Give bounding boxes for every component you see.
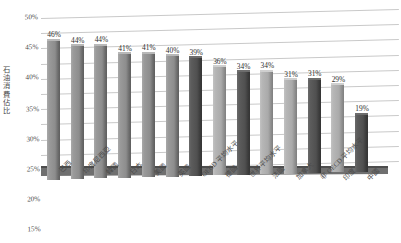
bar: 39%: [189, 57, 202, 176]
bar-value-label: 46%: [47, 31, 61, 38]
bar-value-label: 41%: [118, 45, 132, 52]
bar-value-label: 34%: [261, 62, 275, 69]
y-axis-tick-label: 40%: [15, 75, 39, 83]
bar-face: [118, 53, 131, 178]
x-axis-labels: 巴西印度尼西亞韓國日本美國英國OECD 平均水平德國世界平均水平法國加拿大非 O…: [41, 176, 386, 242]
bar-face: [47, 40, 60, 180]
bar-value-label: 44%: [95, 36, 109, 43]
y-axis-tick-label: 30%: [15, 136, 39, 144]
bar-value-label: 31%: [308, 70, 322, 77]
bar-face: [166, 55, 179, 177]
bar-face: [142, 53, 155, 178]
bar-value-label: 39%: [189, 49, 203, 56]
bar: 41%: [118, 53, 131, 178]
bar: 31%: [308, 79, 321, 173]
bar-face: [308, 79, 321, 173]
bar: 34%: [237, 71, 250, 174]
bar-face: [189, 57, 202, 176]
y-axis-tick-label: 45%: [14, 44, 38, 52]
bar-value-label: 29%: [332, 76, 346, 83]
y-axis-title: 石油消費佔比: [1, 66, 12, 115]
bar-series: 46%44%44%41%41%40%39%36%34%34%31%31%29%1…: [41, 18, 386, 170]
bar: 44%: [71, 45, 84, 179]
y-axis-tick-label: 50%: [14, 14, 38, 22]
bar-value-label: 41%: [142, 44, 156, 51]
bar-value-label: 40%: [166, 47, 180, 54]
bar-face: [71, 45, 84, 179]
bar-value-label: 44%: [71, 37, 85, 44]
bar: 40%: [166, 55, 179, 177]
bar-value-label: 34%: [237, 63, 251, 70]
y-axis-tick-label: 25%: [16, 166, 40, 174]
y-axis-tick-label: 15%: [17, 227, 41, 235]
bar-chart: 石油消費佔比 50%45%40%35%30%25%20%15%10%5%0 46…: [0, 0, 401, 243]
bar: 46%: [47, 40, 60, 180]
y-axis-tick-label: 35%: [15, 105, 39, 113]
bar-value-label: 36%: [213, 58, 227, 65]
bar: 41%: [142, 53, 155, 178]
bar: 31%: [284, 79, 297, 173]
bar-face: [237, 71, 250, 174]
y-axis-tick-label: 20%: [16, 196, 40, 204]
bar-face: [284, 79, 297, 173]
bar-value-label: 31%: [284, 71, 298, 78]
bar-value-label: 19%: [355, 105, 369, 112]
